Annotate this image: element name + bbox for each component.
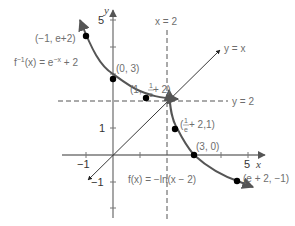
- point-3-0: [191, 152, 197, 158]
- point-neg1-eplus2: [83, 33, 89, 39]
- x-tick-neg1: −1: [77, 158, 90, 170]
- point-label-eplus2-neg1: (e + 2, −1): [243, 173, 289, 184]
- point-label-neg1-eplus2: (−1, e+2): [35, 33, 76, 44]
- svg-text:+ 2): + 2): [153, 84, 171, 95]
- y-tick-1: 1: [99, 122, 105, 134]
- y-tick-neg1: −1: [91, 176, 104, 188]
- point-eplus2-neg1: [234, 178, 240, 184]
- svg-text:(1,: (1,: [130, 84, 142, 95]
- vertical-asymptote-label: x = 2: [155, 16, 177, 27]
- horizontal-asymptote-label: y = 2: [232, 96, 254, 107]
- y-axis: [110, 10, 116, 218]
- point-0-3: [110, 76, 116, 82]
- inverse-function-label: f−1(x) = e−x + 2: [14, 56, 78, 68]
- point-inv-e-plus2-1: [172, 126, 178, 132]
- point-label-3-0: (3, 0): [196, 141, 219, 152]
- function-graph: y x 5 1 −1 −1 5 y = 2 x = 2 y = x (−1, e…: [0, 0, 295, 226]
- point-label-1-inv-e-plus2: (1, 1 e + 2): [130, 82, 171, 98]
- x-axis-label: x: [255, 158, 261, 170]
- y-tick-5: 5: [98, 14, 104, 26]
- x-axis: [62, 152, 265, 158]
- point-label-0-3: (0, 3): [116, 63, 139, 74]
- svg-text:+ 2,1): + 2,1): [189, 119, 215, 130]
- x-tick-5: 5: [244, 158, 250, 170]
- svg-text:f−1(x) = e−x + 2: f−1(x) = e−x + 2: [14, 56, 78, 68]
- identity-line-label: y = x: [224, 43, 245, 54]
- svg-text:e: e: [184, 126, 188, 133]
- point-label-inv-e-plus2-1: ( 1 e + 2,1): [180, 117, 215, 133]
- svg-text:1: 1: [184, 117, 188, 124]
- original-function-label: f(x) = −ln(x − 2): [128, 174, 196, 185]
